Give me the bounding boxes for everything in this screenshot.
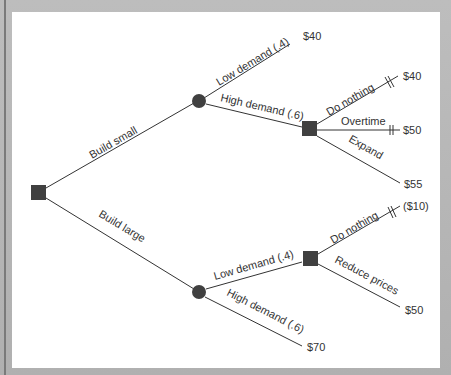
prune-mark-1 — [385, 76, 394, 88]
decision-node-large — [303, 251, 318, 266]
payoff-large-high: $70 — [307, 341, 325, 353]
label-small-expand: Expand — [347, 132, 385, 161]
payoff-small-expand: $55 — [404, 178, 422, 190]
chance-node-large — [192, 285, 206, 299]
label-build-large: Build large — [97, 207, 148, 244]
branch-build-small — [46, 103, 194, 188]
chance-node-small — [192, 94, 206, 108]
decision-node-small — [302, 121, 317, 136]
branch-build-large — [46, 198, 194, 289]
label-build-small: Build small — [87, 124, 139, 161]
payoff-small-overtime: $50 — [403, 124, 421, 136]
payoff-small-low: $40 — [303, 30, 321, 42]
label-small-low: Low demand (.4) — [214, 35, 291, 88]
label-large-reduce: Reduce prices — [333, 253, 401, 297]
label-large-low: Low demand (.4) — [212, 248, 295, 282]
label-small-overtime: Overtime — [341, 115, 386, 127]
payoff-large-do-nothing: ($10) — [403, 200, 429, 212]
payoff-large-reduce: $50 — [405, 304, 423, 316]
label-small-do-nothing: Do nothing — [324, 81, 376, 118]
label-large-do-nothing: Do nothing — [328, 209, 380, 246]
decision-tree: Build small Build large Low demand (.4) … — [0, 0, 451, 375]
root-decision-node — [31, 185, 46, 200]
payoff-small-do-nothing: $40 — [403, 70, 421, 82]
